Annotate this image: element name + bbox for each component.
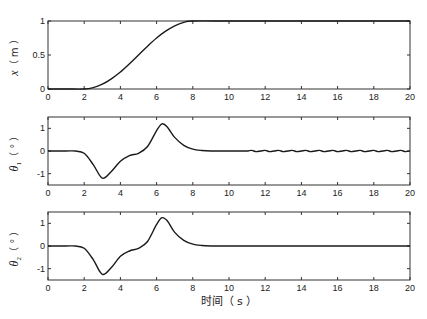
plot-theta1: 02468101214161820-101 [37, 117, 415, 198]
axes-frame [48, 21, 410, 89]
x-tick-label: 2 [82, 188, 87, 198]
ylabel-theta2: θ2（ ° ） [7, 226, 23, 267]
x-tick-label: 0 [45, 283, 50, 293]
x-tick-label: 18 [369, 283, 379, 293]
ylabel-theta1: θ1（ ° ） [7, 131, 23, 172]
x-tick-label: 2 [82, 92, 87, 102]
y-tick-label: 1 [40, 16, 45, 26]
x-tick-label: 6 [154, 283, 159, 293]
y-tick-label: 1 [40, 123, 45, 133]
xlabel-time: 时间（ s ） [201, 295, 258, 308]
x-tick-label: 6 [154, 92, 159, 102]
x-tick-label: 4 [118, 283, 123, 293]
y-tick-label: 0 [40, 146, 45, 156]
x-tick-label: 10 [224, 92, 234, 102]
x-tick-label: 20 [405, 283, 415, 293]
y-tick-label: 0.5 [32, 50, 45, 60]
x-tick-label: 20 [405, 92, 415, 102]
x-tick-label: 16 [333, 283, 343, 293]
x-tick-label: 4 [118, 92, 123, 102]
x-tick-label: 14 [296, 283, 306, 293]
x-tick-label: 12 [260, 92, 270, 102]
x-tick-label: 14 [296, 92, 306, 102]
y-tick-label: 0 [40, 84, 45, 94]
x-tick-label: 16 [333, 92, 343, 102]
x-tick-label: 12 [260, 188, 270, 198]
x-tick-label: 18 [369, 188, 379, 198]
plot-theta2: 02468101214161820-101 [37, 212, 415, 293]
x-tick-label: 10 [224, 283, 234, 293]
y-tick-label: 1 [40, 218, 45, 228]
y-tick-label: -1 [37, 169, 45, 179]
x-tick-label: 18 [369, 92, 379, 102]
chart-figure: 0246810121416182000.51 02468101214161820… [0, 0, 427, 319]
x-tick-label: 0 [45, 92, 50, 102]
x-tick-label: 8 [190, 283, 195, 293]
y-tick-label: -1 [37, 264, 45, 274]
y-tick-label: 0 [40, 241, 45, 251]
plot-x-position: 0246810121416182000.51 [32, 16, 415, 102]
x-tick-label: 6 [154, 188, 159, 198]
x-tick-label: 20 [405, 188, 415, 198]
x-tick-label: 2 [82, 283, 87, 293]
ylabel-x: x（ m ） [7, 34, 21, 76]
x-tick-label: 10 [224, 188, 234, 198]
x-tick-label: 8 [190, 92, 195, 102]
x-tick-label: 12 [260, 283, 270, 293]
x-tick-label: 4 [118, 188, 123, 198]
x-tick-label: 0 [45, 188, 50, 198]
x-tick-label: 8 [190, 188, 195, 198]
x-tick-label: 16 [333, 188, 343, 198]
x-tick-label: 14 [296, 188, 306, 198]
